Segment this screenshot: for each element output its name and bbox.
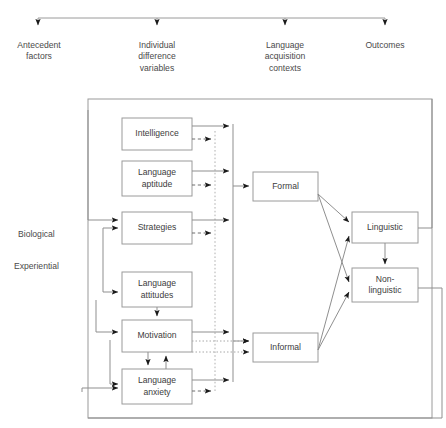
diagram-vector-layer xyxy=(0,0,446,428)
column-header-outcomes: Outcomes xyxy=(346,40,424,51)
box-linguistic xyxy=(352,212,418,243)
side-label-biological: Biological xyxy=(18,229,55,240)
dashed-connectors xyxy=(192,139,211,391)
column-header-contexts-line-3: contexts xyxy=(246,63,324,74)
left-feedback-rails xyxy=(82,110,118,392)
column-header-individual-line-2: difference xyxy=(118,51,196,62)
box-language-anxiety xyxy=(122,369,192,404)
box-formal xyxy=(253,172,318,201)
solid-connectors xyxy=(192,126,249,380)
side-label-experiential: Experiential xyxy=(14,261,59,272)
column-header-individual-line-3: variables xyxy=(118,63,196,74)
figure-canvas: Antecedent factors Individual difference… xyxy=(0,0,446,428)
dotted-connectors-to-informal xyxy=(192,341,249,352)
box-language-aptitude xyxy=(122,161,192,196)
box-intelligence xyxy=(122,118,192,150)
box-non-linguistic xyxy=(352,268,418,302)
box-strategies xyxy=(122,212,192,244)
column-header-contexts-line-1: Language xyxy=(246,40,324,51)
column-header-outcomes-line-1: Outcomes xyxy=(346,40,424,51)
top-distributor-bar xyxy=(38,18,385,25)
box-motivation xyxy=(122,320,192,352)
box-informal xyxy=(253,333,318,362)
column-header-contexts: Language acquisition contexts xyxy=(246,40,324,74)
column-header-contexts-line-2: acquisition xyxy=(246,51,324,62)
column-header-antecedent-line-1: Antecedent xyxy=(0,40,78,51)
column-header-antecedent-line-2: factors xyxy=(0,51,78,62)
column-header-individual-line-1: Individual xyxy=(118,40,196,51)
box-language-attitudes xyxy=(122,272,192,307)
column-header-antecedent: Antecedent factors xyxy=(0,40,78,63)
column-header-individual: Individual difference variables xyxy=(118,40,196,74)
